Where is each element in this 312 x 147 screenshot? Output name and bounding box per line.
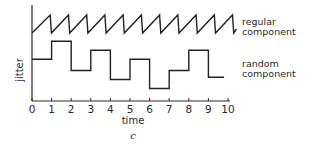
y-axis-label: jitter bbox=[14, 57, 25, 83]
x-tick-label: 8 bbox=[185, 103, 192, 115]
jitter-figure: 012345678910 jitter time c regular compo… bbox=[0, 0, 312, 147]
x-tick-label: 0 bbox=[29, 103, 36, 115]
random-component-steps bbox=[32, 41, 224, 88]
x-tick-label: 1 bbox=[48, 103, 55, 115]
x-axis-tick-labels: 012345678910 bbox=[29, 103, 235, 115]
x-tick-label: 6 bbox=[146, 103, 153, 115]
panel-label: c bbox=[130, 130, 136, 141]
x-tick-label: 4 bbox=[107, 103, 114, 115]
x-tick-label: 7 bbox=[166, 103, 173, 115]
x-tick-label: 5 bbox=[127, 103, 134, 115]
x-tick-label: 2 bbox=[68, 103, 75, 115]
x-tick-label: 10 bbox=[221, 103, 234, 115]
random-component-label-line2: component bbox=[242, 68, 296, 79]
x-tick-label: 9 bbox=[205, 103, 212, 115]
regular-component-sawtooth bbox=[32, 15, 237, 33]
regular-component-label-line2: component bbox=[242, 26, 296, 37]
x-axis-label: time bbox=[122, 115, 145, 126]
x-tick-label: 3 bbox=[87, 103, 94, 115]
